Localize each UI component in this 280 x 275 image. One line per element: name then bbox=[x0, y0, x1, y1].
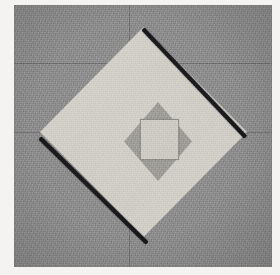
inner-square bbox=[140, 119, 179, 160]
figure-title: Nested diamond and square geometric figu… bbox=[0, 0, 1, 1]
figure-canvas: Nested diamond and square geometric figu… bbox=[0, 0, 280, 275]
figure-blur-layer bbox=[14, 5, 272, 267]
outer-square-plate bbox=[14, 5, 272, 267]
